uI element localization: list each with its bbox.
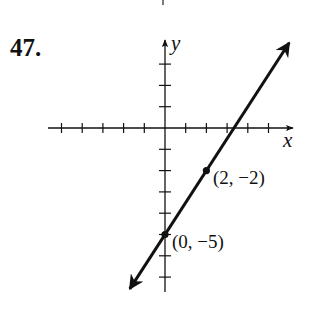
point-2-neg2 bbox=[203, 167, 210, 174]
point-0-neg5 bbox=[161, 231, 168, 238]
y-axis-label: y bbox=[169, 31, 181, 55]
y-axis bbox=[159, 40, 171, 292]
line-graph: 47. y x (2, −2) (0, −5) bbox=[0, 0, 310, 319]
problem-number: 47. bbox=[10, 34, 41, 61]
x-axis-label: x bbox=[282, 128, 293, 152]
point-label-0-neg5: (0, −5) bbox=[172, 231, 224, 253]
point-label-2-neg2: (2, −2) bbox=[213, 167, 265, 189]
x-axis bbox=[48, 123, 293, 133]
